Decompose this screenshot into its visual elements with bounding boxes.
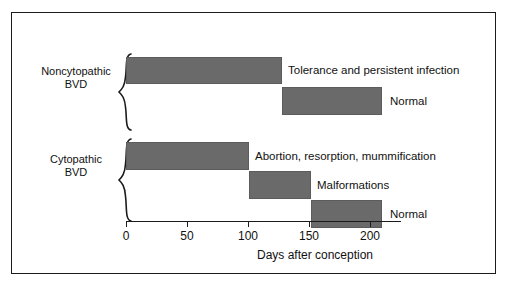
- chart-plot-area: Noncytopathic BVD Tolerance and persiste…: [12, 13, 495, 273]
- group-label-noncytopathic: Noncytopathic BVD: [24, 65, 128, 90]
- group-label-line2: BVD: [24, 166, 128, 179]
- group-label-cytopathic: Cytopathic BVD: [24, 153, 128, 178]
- x-axis-tick-150: [309, 221, 310, 227]
- bar-tolerance-and-persistent-infection: [126, 57, 282, 84]
- bar-label-tolerance-and-persistent-infection: Tolerance and persistent infection: [288, 64, 459, 76]
- x-axis-tick-100: [248, 221, 249, 227]
- x-axis-tick-50: [187, 221, 188, 227]
- x-axis-ticklabel-50: 50: [180, 229, 193, 243]
- x-axis-line: [126, 221, 401, 222]
- x-axis-ticklabel-0: 0: [123, 229, 130, 243]
- x-axis-ticklabel-150: 150: [299, 229, 319, 243]
- bar-label-cytopathic-normal: Normal: [390, 208, 427, 220]
- bar-label-abortion-resorption-mummification: Abortion, resorption, mummification: [255, 150, 436, 162]
- x-axis-title: Days after conception: [190, 248, 440, 262]
- bar-cytopathic-normal: [311, 200, 382, 228]
- group-label-line1: Cytopathic: [24, 153, 128, 166]
- bar-malformations: [249, 171, 311, 199]
- x-axis-tick-200: [370, 221, 371, 227]
- x-axis-ticklabel-100: 100: [238, 229, 258, 243]
- bar-label-noncytopathic-normal: Normal: [390, 95, 427, 107]
- bar-label-malformations: Malformations: [317, 179, 389, 191]
- bar-abortion-resorption-mummification: [126, 142, 249, 170]
- bar-noncytopathic-normal: [282, 87, 382, 115]
- group-label-line2: BVD: [24, 78, 128, 91]
- x-axis-tick-0: [126, 221, 127, 227]
- x-axis-ticklabel-200: 200: [360, 229, 380, 243]
- figure-frame: Noncytopathic BVD Tolerance and persiste…: [11, 12, 496, 274]
- group-label-line1: Noncytopathic: [24, 65, 128, 78]
